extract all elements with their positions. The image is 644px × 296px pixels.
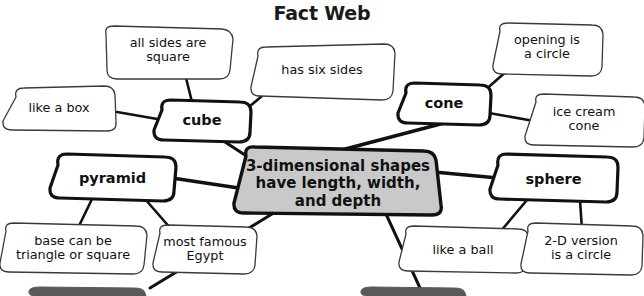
leaf-label-opening-is-a-circle: opening is a circle [494,33,600,62]
leaf-label-ice-cream-cone: ice cream cone [528,105,640,134]
main-node-label-cube: cube [154,112,250,128]
page-title: Fact Web [0,2,644,24]
leaf-label-all-sides-are-square: all sides are square [105,36,231,65]
leaf-label-like-a-box: like a box [4,101,114,115]
labels: Fact Web 3-dimensional shapes have lengt… [0,0,644,296]
leaf-label-most-famous-egypt: most famous Egypt [155,235,255,264]
leaf-label-base-can-be-triangle-or-square: base can be triangle or square [2,234,144,263]
center-node-label: 3-dimensional shapes have length, width,… [234,158,442,210]
fact-web-diagram: Fact Web 3-dimensional shapes have lengt… [0,0,644,296]
leaf-label-like-a-ball: like a ball [400,243,526,257]
leaf-label-has-six-sides: has six sides [252,63,392,77]
leaf-label-2d-version-is-a-circle: 2-D version is a circle [523,234,639,263]
main-node-label-sphere: sphere [490,171,617,187]
main-node-label-cone: cone [398,95,490,111]
main-node-label-pyramid: pyramid [50,170,175,186]
